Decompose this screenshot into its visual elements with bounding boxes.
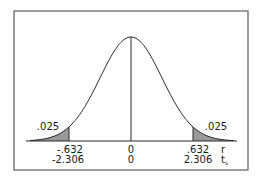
t-tick-right: 2.306	[184, 154, 213, 165]
right-tail-area-label: .025	[205, 121, 227, 132]
bell-curve	[30, 37, 234, 141]
t-distribution-chart: .025 .025 -.632 0 .632 r -2.306 0 2.306 …	[0, 0, 260, 187]
t-tick-left: -2.306	[52, 154, 84, 165]
left-tail-area-label: .025	[37, 121, 59, 132]
t-axis-label: ts	[221, 154, 228, 166]
t-tick-center: 0	[128, 154, 134, 165]
